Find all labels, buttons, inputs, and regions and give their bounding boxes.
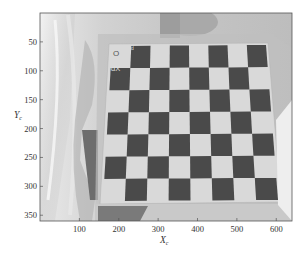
checker-square-dark <box>229 67 250 89</box>
y-tick-label: 350 <box>24 210 37 220</box>
dx-label: dX <box>111 64 120 73</box>
checker-square-dark <box>170 46 190 68</box>
checker-square-dark <box>255 178 278 200</box>
x-tick-label: 500 <box>231 224 244 234</box>
checker-square-dark <box>127 134 149 156</box>
x-tick-label: 400 <box>191 224 204 234</box>
dy-label: d <box>131 45 134 51</box>
y-tick-label: 300 <box>24 181 37 191</box>
checker-square-dark <box>208 45 228 67</box>
checker-square-dark <box>169 90 189 112</box>
checker-square-dark <box>252 134 275 156</box>
checker-square-dark <box>104 157 126 179</box>
x-tick-label: 300 <box>152 224 165 234</box>
checker-square-dark <box>190 112 211 134</box>
checker-square-dark <box>249 89 271 111</box>
x-tick-label: 600 <box>270 224 283 234</box>
checker-square-dark <box>189 68 209 90</box>
checker-square-dark <box>169 134 190 156</box>
y-tick-label: 50 <box>29 37 38 47</box>
checker-square-dark <box>147 156 169 178</box>
figure: O dX d 50100150200250300350 100200300400… <box>0 0 306 258</box>
y-tick-label: 200 <box>24 124 37 134</box>
x-tick-label: 200 <box>112 224 125 234</box>
checker-square-dark <box>125 179 147 201</box>
checker-square-dark <box>212 178 235 200</box>
checker-square-dark <box>247 45 268 67</box>
x-axis-label: Xc <box>159 235 169 246</box>
calibration-photo: O dX d <box>40 8 292 221</box>
checker-square-dark <box>148 112 169 134</box>
checker-square-dark <box>129 90 150 112</box>
checker-square-dark <box>169 178 191 200</box>
checker-square-dark <box>230 112 252 134</box>
checker-square-dark <box>149 68 169 90</box>
origin-label: O <box>113 49 119 58</box>
checker-square-dark <box>209 90 230 112</box>
checker-square-dark <box>190 156 212 178</box>
checker-square-dark <box>107 112 129 134</box>
y-tick-label: 150 <box>24 95 37 105</box>
checker-square-dark <box>211 134 233 156</box>
y-axis-label: Yc <box>14 110 22 121</box>
y-tick-label: 250 <box>24 152 37 162</box>
checker-square-dark <box>232 156 255 178</box>
y-tick-label: 100 <box>24 66 37 76</box>
x-tick-label: 100 <box>73 224 86 234</box>
